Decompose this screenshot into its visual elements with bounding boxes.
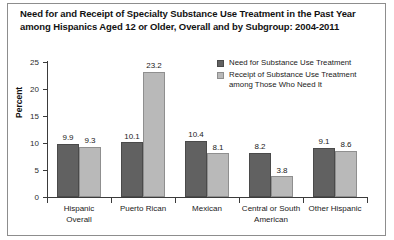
y-axis-tick: 20 (30, 80, 47, 98)
bar (271, 176, 293, 197)
bar-value-label: 9.3 (75, 136, 105, 145)
chart-title-line-2: among Hispanics Aged 12 or Older, Overal… (20, 21, 370, 34)
category-label-line: American (239, 215, 303, 226)
category-label: Other Hispanic (303, 204, 367, 215)
y-axis-tick-label: 0 (35, 193, 39, 202)
bar (57, 144, 79, 197)
category-label-line: Mexican (175, 204, 239, 215)
bar (313, 148, 335, 197)
bar-group: 9.18.6 (303, 62, 367, 197)
category-axis: HispanicOverallPuerto RicanMexicanCentra… (47, 198, 368, 232)
bar-value-label: 8.1 (203, 143, 233, 152)
bar-value-label: 23.2 (139, 61, 169, 70)
category-separator-tick (367, 198, 368, 203)
bar-value-label: 8.6 (331, 140, 361, 149)
bar-group: 8.23.8 (239, 62, 303, 197)
bar (207, 153, 229, 197)
y-axis-tick: 5 (35, 161, 47, 179)
bar (143, 72, 165, 197)
category-separator-tick (303, 198, 304, 203)
category-label-line: Other Hispanic (303, 204, 367, 215)
chart-figure: Need for and Receipt of Specialty Substa… (0, 0, 394, 240)
y-axis-tick: 15 (30, 107, 47, 125)
category-label-line: Overall (47, 215, 111, 226)
y-axis-tick-label: 25 (30, 58, 39, 67)
y-axis-tick: 0 (35, 188, 47, 206)
bar-group: 10.48.1 (175, 62, 239, 197)
bar (335, 151, 357, 197)
category-label: Mexican (175, 204, 239, 215)
bar-value-label: 10.4 (181, 130, 211, 139)
category-label: Puerto Rican (111, 204, 175, 215)
plot-area: 05101520259.99.310.123.210.48.18.23.89.1… (47, 62, 367, 197)
category-label-line: Hispanic (47, 204, 111, 215)
y-axis-tick-label: 15 (30, 112, 39, 121)
y-axis-tick: 25 (30, 53, 47, 71)
bar-group: 9.99.3 (47, 62, 111, 197)
chart-title-line-1: Need for and Receipt of Specialty Substa… (20, 8, 370, 21)
category-label-line: Central or South (239, 204, 303, 215)
bar-value-label: 3.8 (267, 166, 297, 175)
y-axis-tick-label: 10 (30, 139, 39, 148)
category-separator-tick (239, 198, 240, 203)
bar (79, 147, 101, 197)
y-axis-tick-label: 20 (30, 85, 39, 94)
category-label: HispanicOverall (47, 204, 111, 225)
category-label-line: Puerto Rican (111, 204, 175, 215)
y-axis-label: Percent (14, 87, 24, 118)
bar (121, 142, 143, 197)
category-label: Central or SouthAmerican (239, 204, 303, 225)
category-separator-tick (175, 198, 176, 203)
chart-title: Need for and Receipt of Specialty Substa… (20, 8, 370, 33)
y-axis-tick-label: 5 (35, 166, 39, 175)
y-axis-tick: 10 (30, 134, 47, 152)
bar-value-label: 8.2 (245, 142, 275, 151)
bar-group: 10.123.2 (111, 62, 175, 197)
category-separator-tick (47, 198, 48, 203)
category-separator-tick (111, 198, 112, 203)
